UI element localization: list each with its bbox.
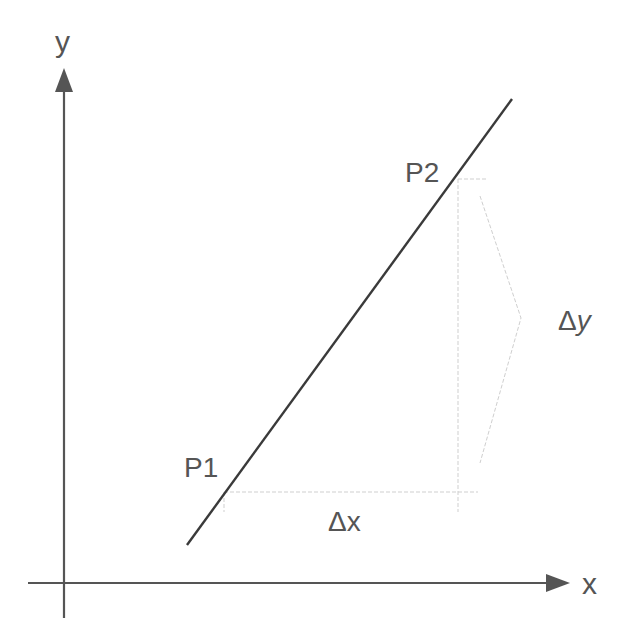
sloped-line [187, 99, 512, 545]
x-axis-arrow-icon [546, 574, 570, 592]
delta-symbol: Δ [558, 305, 577, 336]
delta-guides [224, 179, 521, 512]
x-axis-label: x [582, 567, 597, 600]
delta-y-label: Δy [558, 305, 593, 336]
y-axis [55, 68, 73, 618]
delta-y-var: y [575, 305, 593, 336]
delta-x-label: Δx [328, 506, 361, 537]
x-axis [28, 574, 570, 592]
point-label-p2: P2 [405, 157, 439, 188]
y-axis-arrow-icon [55, 68, 73, 92]
y-axis-label: y [55, 25, 70, 58]
point-label-p1: P1 [184, 452, 218, 483]
dy-brace [480, 196, 521, 463]
slope-diagram: y x P1 P2 Δx Δy [0, 0, 625, 639]
